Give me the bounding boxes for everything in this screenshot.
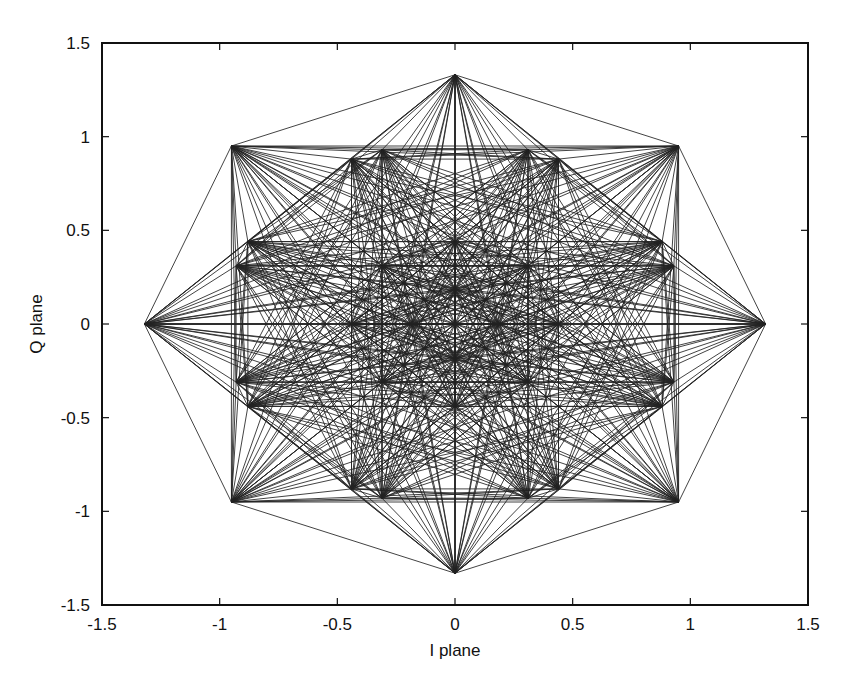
x-tick-label: 0.5 <box>561 615 585 634</box>
x-axis-label: I plane <box>429 641 480 660</box>
x-tick-label: 1.5 <box>796 615 820 634</box>
y-axis-label: Q plane <box>27 294 46 354</box>
y-tick-label: -1.5 <box>61 596 90 615</box>
connection-lines <box>144 75 765 573</box>
pairwise-lines <box>144 75 765 573</box>
x-tick-label: -1 <box>212 615 227 634</box>
y-tick-label: 0 <box>81 315 90 334</box>
x-tick-label: -1.5 <box>87 615 116 634</box>
y-tick-label: 0.5 <box>66 221 90 240</box>
y-tick-label: 1 <box>81 128 90 147</box>
x-tick-label: 1 <box>686 615 695 634</box>
y-tick-label: -0.5 <box>61 409 90 428</box>
y-tick-label: 1.5 <box>66 34 90 53</box>
x-tick-label: -0.5 <box>323 615 352 634</box>
constellation-chart: -1.5-1-0.500.511.5 -1.5-1-0.500.511.5 I … <box>0 0 858 688</box>
x-tick-label: 0 <box>450 615 459 634</box>
y-tick-label: -1 <box>75 502 90 521</box>
